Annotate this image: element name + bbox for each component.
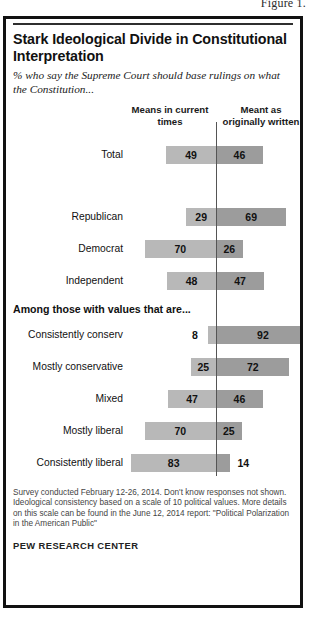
row-spacer	[13, 168, 293, 204]
chart-row: Mostly conservative2572	[13, 354, 293, 380]
value-label-left: 8	[186, 326, 204, 344]
chart-row: Mixed4746	[13, 386, 293, 412]
value-label-left: 70	[145, 240, 216, 258]
chart-row: Total4946	[13, 142, 293, 168]
value-label-right: 46	[216, 146, 263, 164]
value-label-left: 49	[166, 146, 216, 164]
chart-row: Consistently conserv892	[13, 322, 293, 348]
chart-row: Mostly liberal7025	[13, 418, 293, 444]
bar-meant-as-originally-written	[216, 454, 230, 472]
value-label-left: 47	[168, 390, 216, 408]
chart-row: Independent4847	[13, 268, 293, 294]
column-header-left: Means in current times	[131, 104, 209, 127]
row-label: Consistently liberal	[13, 450, 123, 476]
value-label-right: 92	[216, 326, 303, 344]
row-label: Mixed	[13, 386, 123, 412]
row-label: Independent	[13, 268, 123, 294]
value-label-right: 69	[216, 208, 286, 226]
chart-footnote: Survey conducted February 12-26, 2014. D…	[13, 488, 293, 530]
chart-row: Consistently liberal8314	[13, 450, 293, 476]
bar-means-current-times	[208, 326, 216, 344]
value-label-left: 83	[131, 454, 216, 472]
value-label-left: 70	[145, 422, 216, 440]
section-header: Among those with values that are...	[13, 302, 293, 316]
center-axis-line	[216, 122, 217, 476]
value-label-left: 48	[167, 272, 216, 290]
column-headers: Means in current times Meant as original…	[13, 104, 293, 134]
page-title: Stark Ideological Divide in Constitution…	[13, 31, 293, 64]
row-label: Consistently conserv	[13, 322, 123, 348]
column-header-right: Meant as originally written	[218, 104, 303, 127]
row-label: Mostly conservative	[13, 354, 123, 380]
value-label-right: 26	[216, 240, 243, 258]
row-label: Mostly liberal	[13, 418, 123, 444]
value-label-left: 25	[191, 358, 217, 376]
title-divider	[13, 23, 293, 25]
value-label-right: 47	[216, 272, 264, 290]
chart-rows: Total4946Republican2969Democrat7026Indep…	[13, 134, 293, 476]
row-spacer	[13, 294, 293, 302]
chart-card: Stark Ideological Divide in Constitution…	[3, 16, 303, 608]
chart-subtitle: % who say the Supreme Court should base …	[13, 69, 293, 96]
chart-inner: Stark Ideological Divide in Constitution…	[6, 23, 300, 608]
value-label-left: 29	[186, 208, 216, 226]
figure-caption: Figure 1.	[261, 0, 306, 11]
value-label-right: 46	[216, 390, 263, 408]
row-label: Total	[13, 142, 123, 168]
pew-research-center-brand: PEW RESEARCH CENTER	[13, 540, 293, 551]
chart-row: Republican2969	[13, 204, 293, 230]
value-label-right: 25	[216, 422, 242, 440]
chart-plot-area: Means in current times Meant as original…	[13, 104, 293, 476]
row-label: Democrat	[13, 236, 123, 262]
chart-row: Democrat7026	[13, 236, 293, 262]
value-label-right: 14	[234, 454, 252, 472]
value-label-right: 72	[216, 358, 289, 376]
row-spacer	[13, 134, 293, 142]
row-label: Republican	[13, 204, 123, 230]
